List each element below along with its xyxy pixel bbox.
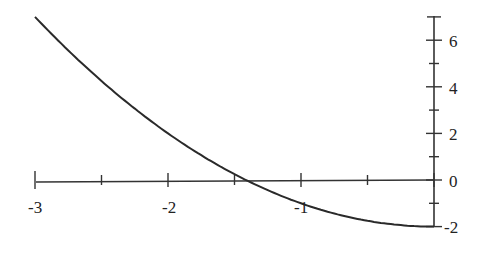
function-curve	[35, 17, 434, 227]
x-label-neg1: -1	[294, 198, 308, 217]
x-label-neg2: -2	[162, 198, 176, 217]
x-tick-labels: -3 -2 -1	[28, 198, 308, 217]
y-label-2: 2	[449, 125, 458, 144]
y-label-4: 4	[449, 79, 458, 98]
function-plot: -3 -2 -1 6 4 2 0 -2	[0, 0, 485, 253]
x-label-neg3: -3	[28, 198, 42, 217]
y-label-0: 0	[449, 172, 458, 191]
axes	[36, 16, 434, 226]
y-tick-labels: 6 4 2 0 -2	[444, 32, 458, 237]
y-label-neg2: -2	[444, 218, 458, 237]
y-label-6: 6	[449, 32, 458, 51]
